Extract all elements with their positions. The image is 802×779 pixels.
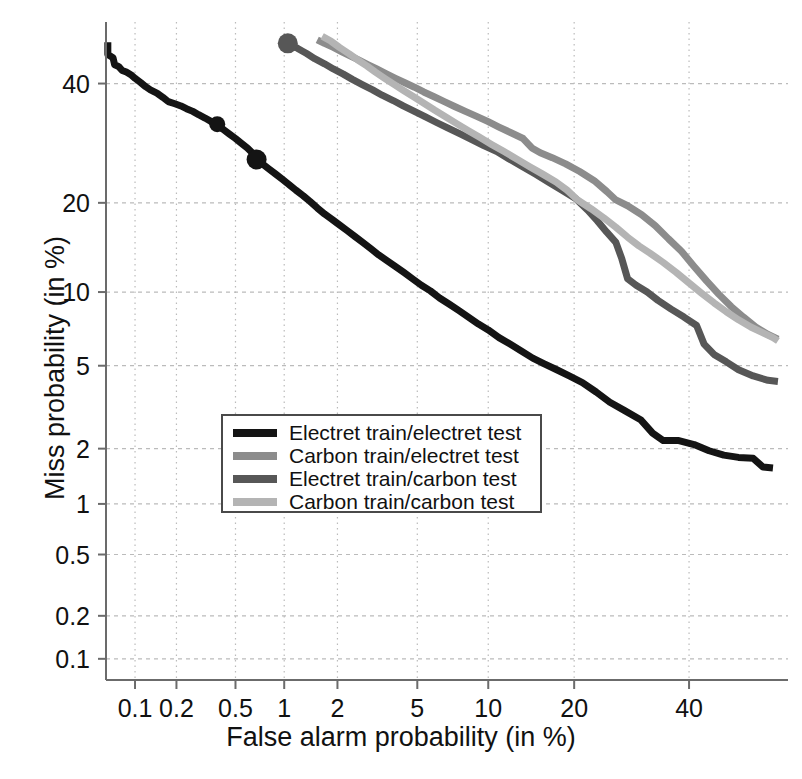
legend-label: Carbon train/electret test — [289, 445, 519, 466]
det-curve-figure: False alarm probability (in %) Miss prob… — [0, 0, 802, 779]
series-layer — [108, 33, 778, 468]
y-tick-label: 2 — [0, 434, 90, 463]
y-tick-label: 0.1 — [0, 644, 90, 673]
x-tick-label: 2 — [330, 694, 344, 723]
plot-area — [0, 0, 802, 779]
x-tick-label: 0.1 — [118, 694, 153, 723]
x-tick-label: 1 — [277, 694, 291, 723]
y-tick-label: 0.2 — [0, 601, 90, 630]
y-tick-label: 5 — [0, 351, 90, 380]
legend-item[interactable]: Carbon train/carbon test — [223, 490, 540, 513]
legend-swatch-electret-electret — [233, 429, 277, 437]
legend-swatch-carbon-electret — [233, 452, 277, 460]
legend-item[interactable]: Carbon train/electret test — [223, 444, 540, 467]
legend-label: Carbon train/carbon test — [289, 491, 514, 512]
series-marker-0 — [247, 150, 267, 170]
legend-label: Electret train/electret test — [289, 422, 521, 443]
x-tick-label: 0.2 — [159, 694, 194, 723]
series-line-3 — [322, 36, 778, 341]
y-tick-label: 20 — [0, 188, 90, 217]
series-marker-extra-0 — [209, 116, 225, 132]
legend-swatch-electret-carbon — [233, 475, 277, 483]
y-tick-label: 1 — [0, 489, 90, 518]
y-tick-label: 10 — [0, 278, 90, 307]
series-line-0 — [108, 42, 773, 468]
legend-item[interactable]: Electret train/electret test — [223, 421, 540, 444]
series-marker-2 — [278, 33, 298, 53]
series-line-1 — [317, 40, 778, 339]
y-tick-label: 40 — [0, 69, 90, 98]
x-tick-label: 40 — [675, 694, 703, 723]
legend: Electret train/electret test Carbon trai… — [221, 414, 542, 513]
x-tick-label: 0.5 — [218, 694, 253, 723]
series-line-2 — [288, 43, 778, 381]
legend-label: Electret train/carbon test — [289, 468, 517, 489]
x-tick-label: 10 — [474, 694, 502, 723]
y-tick-label: 0.5 — [0, 540, 90, 569]
x-tick-label: 20 — [560, 694, 588, 723]
legend-item[interactable]: Electret train/carbon test — [223, 467, 540, 490]
x-axis-title: False alarm probability (in %) — [0, 722, 802, 753]
x-tick-label: 5 — [410, 694, 424, 723]
legend-swatch-carbon-carbon — [233, 498, 277, 506]
